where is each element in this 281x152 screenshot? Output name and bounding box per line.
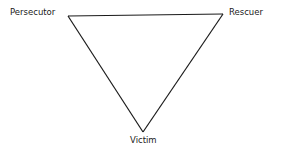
edge-rescuer-victim xyxy=(143,14,223,132)
node-label-victim: Victim xyxy=(130,136,157,145)
triangle-diagram xyxy=(0,0,281,152)
edge-victim-persecutor xyxy=(68,16,143,132)
node-label-rescuer: Rescuer xyxy=(229,8,263,17)
edge-persecutor-rescuer xyxy=(68,14,223,16)
node-label-persecutor: Persecutor xyxy=(10,8,55,17)
